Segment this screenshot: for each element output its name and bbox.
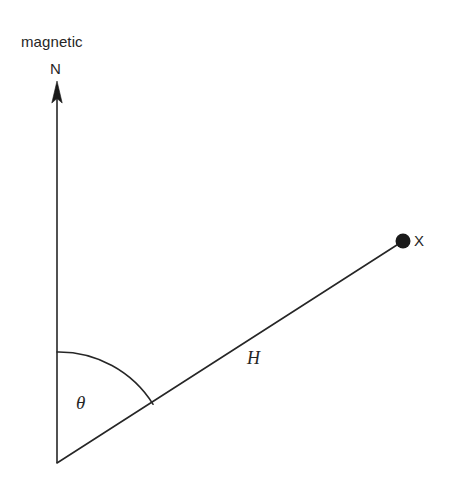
angle-arc-icon <box>57 352 153 404</box>
figure-root: magnetic N X H θ <box>0 0 463 496</box>
filled-dot-icon <box>396 234 411 249</box>
label-magnetic: magnetic <box>21 34 83 49</box>
diagram-canvas <box>0 0 463 496</box>
label-north: N <box>50 61 61 76</box>
label-point-x: X <box>414 233 424 248</box>
bearing-line-h <box>57 243 400 463</box>
label-distance-h: H <box>247 349 260 367</box>
label-angle-theta: θ <box>76 393 85 412</box>
caption-remnant <box>0 484 463 494</box>
